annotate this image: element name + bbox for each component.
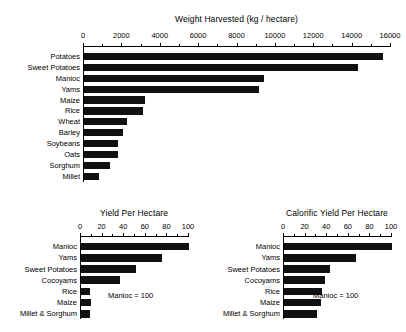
x-axis-tick-label: 4000 bbox=[151, 31, 168, 40]
x-axis-tick-label: 0 bbox=[78, 222, 82, 231]
category-label: Rice bbox=[203, 288, 280, 296]
category-label: Wheat bbox=[0, 118, 80, 126]
x-axis-minor-tick bbox=[141, 44, 142, 46]
x-axis-minor-tick bbox=[371, 44, 372, 46]
x-axis-tick bbox=[123, 233, 124, 236]
category-label: Rice bbox=[0, 107, 80, 115]
x-axis-line bbox=[83, 46, 391, 47]
category-label: Maize bbox=[203, 299, 280, 307]
category-label: Yams bbox=[0, 86, 80, 94]
bar bbox=[81, 310, 90, 318]
bar bbox=[284, 254, 356, 262]
bar bbox=[84, 86, 259, 93]
chart-title-yield-per-hectare: Yield Per Hectare bbox=[80, 208, 188, 218]
x-axis-minor-tick bbox=[359, 234, 360, 236]
x-axis-tick bbox=[313, 43, 314, 46]
x-axis-tick bbox=[166, 233, 167, 236]
x-axis-tick-label: 100 bbox=[385, 222, 398, 231]
bar bbox=[284, 310, 317, 318]
x-axis-tick bbox=[369, 233, 370, 236]
bar bbox=[84, 173, 99, 180]
category-label: Barley bbox=[0, 129, 80, 137]
x-axis-minor-tick bbox=[315, 234, 316, 236]
category-label: Sweet Potatoes bbox=[0, 64, 80, 72]
bar bbox=[81, 254, 162, 262]
x-axis-minor-tick bbox=[332, 44, 333, 46]
x-axis-tick bbox=[275, 43, 276, 46]
x-axis-tick bbox=[83, 43, 84, 46]
x-axis-tick bbox=[390, 43, 391, 46]
bar bbox=[84, 129, 123, 136]
x-axis-tick-label: 2000 bbox=[113, 31, 130, 40]
category-label: Soybeans bbox=[0, 140, 80, 148]
x-axis-tick bbox=[391, 233, 392, 236]
category-label: Maize bbox=[0, 97, 80, 105]
category-label: Oats bbox=[0, 151, 80, 159]
x-axis-tick-label: 80 bbox=[365, 222, 373, 231]
x-axis-tick bbox=[160, 43, 161, 46]
x-axis-minor-tick bbox=[177, 234, 178, 236]
bar bbox=[84, 151, 118, 158]
x-axis-tick bbox=[283, 233, 284, 236]
category-label: Sorghum bbox=[0, 162, 80, 170]
x-axis-tick bbox=[326, 233, 327, 236]
x-axis-minor-tick bbox=[156, 234, 157, 236]
x-axis-tick bbox=[80, 233, 81, 236]
x-axis-minor-tick bbox=[217, 44, 218, 46]
bar bbox=[284, 276, 325, 284]
bar bbox=[84, 96, 145, 103]
x-axis-tick-label: 12000 bbox=[303, 31, 324, 40]
x-axis-tick bbox=[145, 233, 146, 236]
x-axis-tick-label: 60 bbox=[141, 222, 149, 231]
x-axis-tick-label: 0 bbox=[81, 31, 85, 40]
x-axis-line bbox=[80, 236, 189, 237]
annotation-manioc-baseline-calorific: Manioc = 100 bbox=[313, 291, 358, 300]
bar bbox=[84, 107, 143, 114]
category-label: Sweet Potatoes bbox=[203, 266, 280, 274]
bar bbox=[81, 288, 90, 296]
x-axis-line bbox=[283, 236, 392, 237]
x-axis-minor-tick bbox=[294, 44, 295, 46]
x-axis-tick-label: 20 bbox=[97, 222, 105, 231]
x-axis-tick bbox=[305, 233, 306, 236]
annotation-manioc-baseline-yield: Manioc = 100 bbox=[108, 291, 153, 300]
x-axis-tick-label: 40 bbox=[322, 222, 330, 231]
x-axis-tick bbox=[348, 233, 349, 236]
bar bbox=[81, 265, 136, 273]
x-axis-tick-label: 60 bbox=[344, 222, 352, 231]
x-axis-tick bbox=[121, 43, 122, 46]
x-axis-minor-tick bbox=[112, 234, 113, 236]
x-axis-minor-tick bbox=[294, 234, 295, 236]
bar bbox=[84, 53, 383, 60]
x-axis-tick bbox=[198, 43, 199, 46]
x-axis-minor-tick bbox=[91, 234, 92, 236]
bar bbox=[81, 243, 189, 251]
bar bbox=[81, 299, 91, 307]
bar bbox=[81, 276, 120, 284]
x-axis-tick bbox=[102, 233, 103, 236]
category-label: Millet & Sorghum bbox=[203, 310, 280, 318]
bar bbox=[84, 64, 358, 71]
category-label: Yams bbox=[0, 254, 77, 262]
x-axis-minor-tick bbox=[256, 44, 257, 46]
x-axis-tick-label: 16000 bbox=[380, 31, 401, 40]
x-axis-tick-label: 20 bbox=[300, 222, 308, 231]
category-label: Millet bbox=[0, 173, 80, 181]
x-axis-tick-label: 8000 bbox=[228, 31, 245, 40]
chart-weight-harvested: Weight Harvested (kg / hectare) 02000400… bbox=[0, 0, 406, 190]
x-axis-minor-tick bbox=[134, 234, 135, 236]
bar bbox=[84, 140, 118, 147]
category-label: Rice bbox=[0, 288, 77, 296]
category-label: Cocoyams bbox=[0, 277, 77, 285]
category-label: Cocoyams bbox=[203, 277, 280, 285]
x-axis-tick-label: 14000 bbox=[341, 31, 362, 40]
x-axis-tick-label: 10000 bbox=[264, 31, 285, 40]
bar bbox=[284, 265, 330, 273]
x-axis-tick bbox=[188, 233, 189, 236]
category-label: Manioc bbox=[0, 243, 77, 251]
bar bbox=[84, 162, 110, 169]
category-label: Millet & Sorghum bbox=[0, 310, 77, 318]
x-axis-tick-label: 40 bbox=[119, 222, 127, 231]
chart-title-weight-harvested: Weight Harvested (kg / hectare) bbox=[83, 14, 390, 24]
bar bbox=[284, 243, 392, 251]
